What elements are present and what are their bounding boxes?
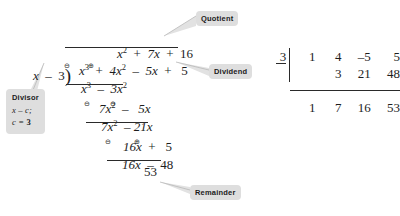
synthetic-c-underline <box>276 63 286 64</box>
synthetic-c-number: 3 <box>280 49 287 64</box>
callout-remainder: Remainder <box>190 185 241 200</box>
callout-divisor-c-value: c = 3 <box>12 116 39 128</box>
callout-divisor-title: Divisor <box>12 93 39 102</box>
synthetic-result-1: 7 <box>316 99 342 116</box>
synthetic-rule-cell <box>290 82 400 99</box>
synthetic-product-0 <box>290 65 316 82</box>
step2-rule <box>86 122 148 123</box>
remainder-value: 53 <box>144 165 157 178</box>
dividend-term-3: 5x <box>145 63 157 78</box>
step3-row: 16x – 48 <box>109 145 173 184</box>
synthetic-product-2: 21 <box>341 65 370 82</box>
synthetic-product-3: 48 <box>371 65 400 82</box>
synthetic-c-value: 3 <box>276 48 289 65</box>
step3-term-2: 48 <box>160 157 173 172</box>
division-overbar <box>65 47 178 48</box>
synthetic-table: 3 1 4 –5 5 3 21 48 <box>276 48 400 116</box>
synthetic-coefficient-2: –5 <box>341 48 370 65</box>
synthetic-products-gutter <box>276 65 289 82</box>
callout-dividend: Dividend <box>209 64 252 79</box>
step1-rule <box>66 84 123 85</box>
synthetic-coefficient-3: 5 <box>371 48 400 65</box>
synthetic-horizontal-rule <box>290 90 400 91</box>
synthetic-rule-gutter <box>276 82 289 99</box>
synthetic-result-2: 16 <box>341 99 370 116</box>
synthetic-coefficient-1: 4 <box>316 48 342 65</box>
synthetic-row-results: 1 7 16 53 <box>276 99 400 116</box>
synthetic-result-3: 53 <box>371 99 400 116</box>
callout-divisor-form: x – c; <box>12 104 39 116</box>
synthetic-result-0: 1 <box>290 99 316 116</box>
synthetic-row-products: 3 21 48 <box>276 65 400 82</box>
step3-rule <box>107 160 161 161</box>
synthetic-rule-row <box>276 82 400 99</box>
callout-quotient: Quotient <box>196 11 238 26</box>
callout-divisor: Divisor x – c; c = 3 <box>6 89 45 134</box>
synthetic-division-table: 3 1 4 –5 5 3 21 48 <box>276 48 400 116</box>
dividend-term-4: 5 <box>181 63 188 78</box>
divisor-constant: 3 <box>58 68 65 83</box>
synthetic-row-coefficients: 3 1 4 –5 5 <box>276 48 400 65</box>
synthetic-product-1: 3 <box>316 65 342 82</box>
synthetic-results-gutter <box>276 99 289 116</box>
synthetic-coefficient-0: 1 <box>290 48 316 65</box>
dividend-operator-3: + <box>164 63 171 78</box>
figure-canvas: x2 + 7x + 16 x – 3) x3 + 4x2 – 5x + 5 ⊖ … <box>0 0 400 216</box>
